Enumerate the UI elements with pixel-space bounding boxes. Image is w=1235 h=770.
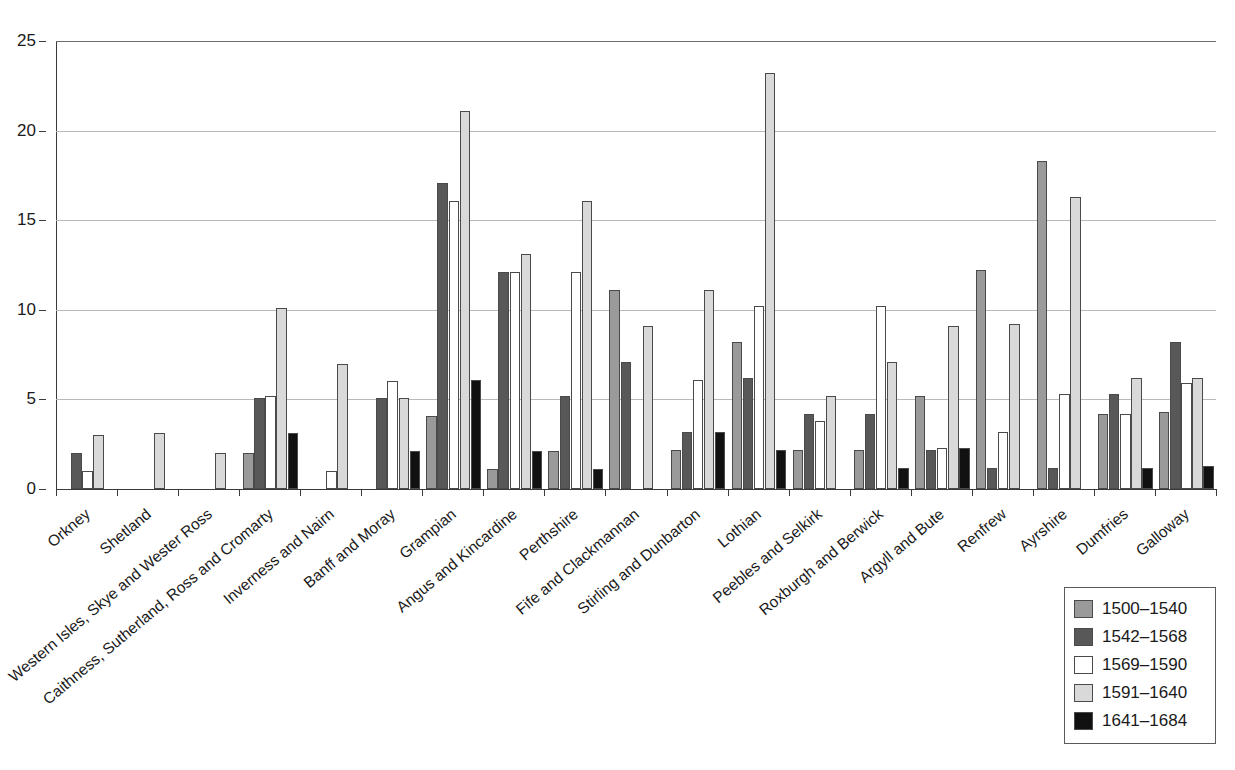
- bar: [521, 254, 532, 489]
- bar: [865, 414, 876, 489]
- bar: [826, 396, 837, 489]
- bar: [399, 398, 410, 489]
- bar: [1098, 414, 1109, 489]
- bar-group: [915, 41, 970, 489]
- bar: [682, 432, 693, 489]
- bar: [1131, 378, 1142, 489]
- x-tick-mark: [544, 489, 545, 496]
- bar-group: [793, 41, 848, 489]
- chart-legend: 1500–15401542–15681569–15901591–16401641…: [1064, 587, 1216, 744]
- bar-chart: 0510152025 OrkneyShetlandWestern Isles, …: [0, 0, 1235, 770]
- bar: [571, 272, 582, 489]
- bar-group: [732, 41, 787, 489]
- y-tick-mark: [39, 489, 46, 490]
- bar: [154, 433, 165, 489]
- bar: [609, 290, 620, 489]
- bar: [265, 396, 276, 489]
- x-tick-mark: [605, 489, 606, 496]
- bar: [460, 111, 471, 489]
- x-tick-mark: [1155, 489, 1156, 496]
- y-tick-mark: [39, 310, 46, 311]
- bar: [82, 471, 93, 489]
- bar: [887, 362, 898, 489]
- bar: [582, 201, 593, 490]
- bar: [593, 469, 604, 489]
- x-tick-mark: [361, 489, 362, 496]
- bar: [376, 398, 387, 489]
- y-tick-label: 15: [17, 210, 36, 230]
- legend-label: 1641–1684: [1102, 711, 1187, 731]
- bar-group: [1098, 41, 1153, 489]
- bar: [1142, 468, 1153, 490]
- legend-swatch-icon: [1074, 712, 1093, 730]
- bar: [532, 451, 543, 489]
- x-tick-mark: [300, 489, 301, 496]
- bar: [243, 453, 254, 489]
- bar: [1070, 197, 1081, 489]
- bar: [548, 451, 559, 489]
- bar: [1048, 468, 1059, 490]
- legend-swatch-icon: [1074, 628, 1093, 646]
- bar: [1181, 383, 1192, 489]
- bar-group: [243, 41, 298, 489]
- bar: [560, 396, 571, 489]
- x-tick-mark: [483, 489, 484, 496]
- x-tick-mark: [422, 489, 423, 496]
- bar: [449, 201, 460, 490]
- bar-group: [304, 41, 359, 489]
- bar: [715, 432, 726, 489]
- y-tick-mark: [39, 399, 46, 400]
- y-tick-label: 20: [17, 121, 36, 141]
- bar: [765, 73, 776, 489]
- legend-swatch-icon: [1074, 684, 1093, 702]
- bar: [487, 469, 498, 489]
- bar: [671, 450, 682, 489]
- bar: [743, 378, 754, 489]
- legend-item: 1591–1640: [1074, 679, 1207, 707]
- x-tick-mark: [789, 489, 790, 496]
- bar-group: [1159, 41, 1214, 489]
- bar: [437, 183, 448, 489]
- bar: [1037, 161, 1048, 489]
- bar: [1009, 324, 1020, 489]
- bar: [898, 468, 909, 490]
- x-axis-line: [56, 489, 1217, 490]
- bar: [276, 308, 287, 489]
- x-tick-mark: [239, 489, 240, 496]
- bar: [1192, 378, 1203, 489]
- y-tick-mark: [39, 41, 46, 42]
- bar: [693, 380, 704, 489]
- legend-swatch-icon: [1074, 656, 1093, 674]
- bar-group: [60, 41, 115, 489]
- bar-group: [365, 41, 420, 489]
- bar: [1059, 394, 1070, 489]
- bar: [854, 450, 865, 489]
- legend-item: 1542–1568: [1074, 623, 1207, 651]
- bar: [1170, 342, 1181, 489]
- bar-group: [121, 41, 176, 489]
- bar: [426, 416, 437, 489]
- bar: [987, 468, 998, 490]
- bar: [876, 306, 887, 489]
- bar-group: [182, 41, 237, 489]
- bar: [959, 448, 970, 489]
- bar: [804, 414, 815, 489]
- y-tick-label: 10: [17, 300, 36, 320]
- plot-area: [56, 41, 1216, 489]
- bar: [288, 433, 299, 489]
- bar: [93, 435, 104, 489]
- bar: [776, 450, 787, 489]
- y-tick-label: 5: [27, 389, 36, 409]
- bar: [1203, 466, 1214, 489]
- x-tick-mark: [1216, 489, 1217, 496]
- x-tick-mark: [972, 489, 973, 496]
- bar: [643, 326, 654, 489]
- legend-label: 1569–1590: [1102, 655, 1187, 675]
- x-tick-mark: [911, 489, 912, 496]
- bar: [326, 471, 337, 489]
- bar-group: [548, 41, 603, 489]
- y-tick-mark: [39, 220, 46, 221]
- legend-item: 1500–1540: [1074, 595, 1207, 623]
- y-tick-label: 0: [27, 479, 36, 499]
- bar: [71, 453, 82, 489]
